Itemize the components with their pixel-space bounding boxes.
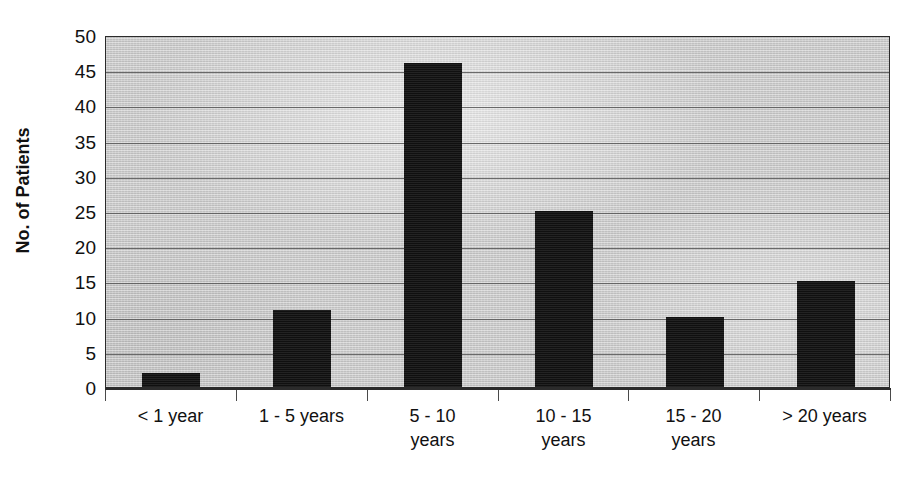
x-axis-tick-mark [628, 390, 629, 401]
y-axis-tick-label: 0 [44, 379, 96, 398]
x-axis-tick-label-line: years [367, 428, 498, 452]
x-axis-tick-labels: < 1 year1 - 5 years5 - 10years10 - 15yea… [105, 404, 891, 474]
gridline [106, 248, 889, 249]
gridline [106, 354, 889, 355]
x-axis-tick-label: 15 - 20years [628, 404, 759, 453]
y-axis-tick-label: 40 [44, 97, 96, 116]
x-axis-tick-mark [105, 390, 106, 401]
gridline [106, 143, 889, 144]
bar [404, 63, 462, 387]
gridline [106, 283, 889, 284]
y-axis-tick-label: 10 [44, 308, 96, 327]
x-axis-tick-label: < 1 year [105, 404, 236, 428]
gridline [106, 178, 889, 179]
x-axis-tick-mark [890, 390, 891, 401]
bar [142, 373, 200, 387]
gridline [106, 213, 889, 214]
gridline [106, 107, 889, 108]
bar-chart: No. of Patients 05101520253035404550 < 1… [0, 0, 902, 483]
bar [666, 317, 724, 387]
x-axis-tick-label-line: < 1 year [138, 406, 204, 426]
bar [535, 211, 593, 387]
y-axis-tick-label: 5 [44, 343, 96, 362]
y-axis-tick-label: 25 [44, 203, 96, 222]
y-axis-tick-label: 20 [44, 238, 96, 257]
x-axis-tick-label-line: years [628, 428, 759, 452]
x-axis-tick-label-line: 5 - 10 [409, 406, 455, 426]
x-axis-tick-label-line: 15 - 20 [665, 406, 721, 426]
y-axis-tick-label: 35 [44, 132, 96, 151]
x-axis-tick-label-line: > 20 years [782, 406, 867, 426]
y-axis-tick-label: 45 [44, 62, 96, 81]
x-axis-tick-label: 5 - 10years [367, 404, 498, 453]
x-axis-tick-label-line: 10 - 15 [535, 406, 591, 426]
bar [797, 281, 855, 387]
x-axis-tick-mark [759, 390, 760, 401]
x-axis-tick-mark [498, 390, 499, 401]
y-axis-tick-label: 30 [44, 167, 96, 186]
x-axis-tick-label: 1 - 5 years [236, 404, 367, 428]
x-axis-tick-label: 10 - 15years [498, 404, 629, 453]
bar [273, 310, 331, 387]
y-axis-title: No. of Patients [13, 111, 34, 271]
x-axis-tick-mark [367, 390, 368, 401]
plot-area [105, 36, 890, 388]
gridline [106, 319, 889, 320]
y-axis-tick-label: 15 [44, 273, 96, 292]
x-axis-tick-mark [236, 390, 237, 401]
y-axis-tick-label: 50 [44, 27, 96, 46]
gridline [106, 72, 889, 73]
y-axis-tick-labels: 05101520253035404550 [44, 36, 96, 388]
x-axis-tick-label: > 20 years [759, 404, 890, 428]
x-axis-tick-label-line: years [498, 428, 629, 452]
x-axis-tick-label-line: 1 - 5 years [259, 406, 344, 426]
